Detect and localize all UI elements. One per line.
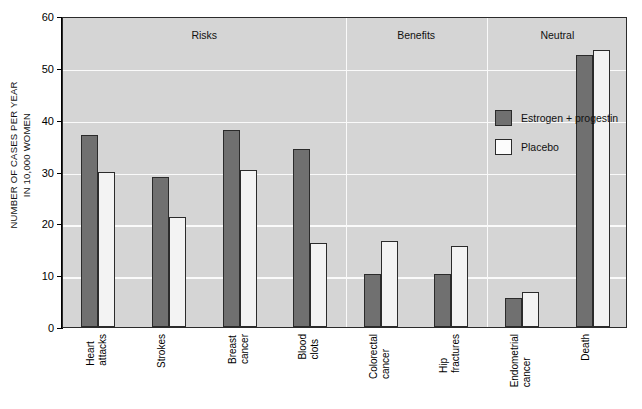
legend: Estrogen + progestin Placebo <box>495 110 618 168</box>
bar <box>169 217 186 327</box>
x-axis-category-label: Blood clots <box>297 334 321 360</box>
y-tick-label: 20 <box>28 218 54 230</box>
y-tick-label: 40 <box>28 115 54 127</box>
x-axis-category-label: Death <box>580 334 592 361</box>
bar <box>240 170 257 327</box>
legend-label-placebo: Placebo <box>521 141 559 153</box>
x-axis-category-label: Heart attacks <box>85 334 109 366</box>
gridline <box>63 277 626 279</box>
bar <box>81 135 98 327</box>
legend-swatch-treatment <box>495 110 512 126</box>
gridline <box>63 70 626 72</box>
bar-chart: NUMBER OF CASES PER YEAR IN 10,000 WOMEN… <box>0 0 642 409</box>
x-axis-category-label: Endometrial cancer <box>509 334 533 387</box>
bar <box>152 177 169 327</box>
bar <box>434 274 451 327</box>
bar <box>451 246 468 327</box>
bar <box>98 172 115 328</box>
legend-label-treatment: Estrogen + progestin <box>521 112 618 124</box>
x-axis-category-label: Strokes <box>156 334 168 368</box>
bar <box>293 149 310 327</box>
y-tick-label: 60 <box>28 11 54 23</box>
y-tick-label: 30 <box>28 167 54 179</box>
plot-area: RisksBenefitsNeutral Estrogen + progesti… <box>62 17 627 328</box>
section-divider <box>487 18 489 327</box>
bar <box>522 292 539 327</box>
y-tick-label: 50 <box>28 63 54 75</box>
y-tick-label: 0 <box>28 322 54 334</box>
x-axis-category-label: Colorectal cancer <box>368 334 392 379</box>
section-header: Benefits <box>397 29 435 41</box>
gridline <box>63 174 626 176</box>
y-tick-label: 10 <box>28 270 54 282</box>
section-divider <box>346 18 348 327</box>
bar <box>310 243 327 327</box>
x-axis-category-label: Hip fractures <box>438 334 462 373</box>
section-header: Risks <box>191 29 217 41</box>
bar <box>223 130 240 327</box>
bar <box>505 298 522 327</box>
x-axis-category-label: Breast cancer <box>227 334 251 364</box>
bar <box>576 55 593 327</box>
legend-item-treatment: Estrogen + progestin <box>495 110 618 126</box>
legend-item-placebo: Placebo <box>495 139 618 155</box>
bar <box>381 241 398 327</box>
gridline <box>63 225 626 227</box>
bar <box>364 274 381 327</box>
legend-swatch-placebo <box>495 139 512 155</box>
section-header: Neutral <box>540 29 574 41</box>
bar <box>593 50 610 327</box>
